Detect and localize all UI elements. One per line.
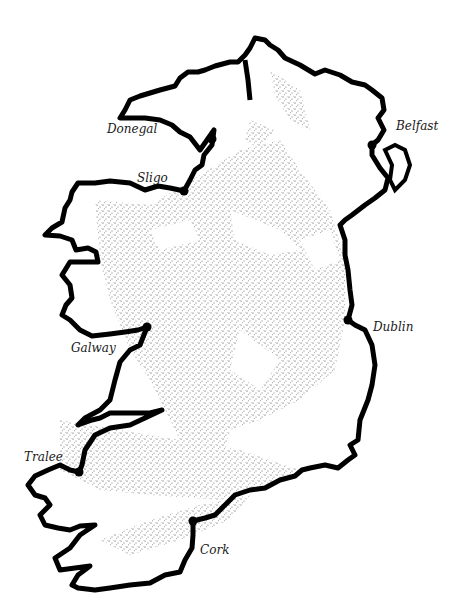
city-label-belfast: Belfast [396, 120, 438, 132]
city-label-galway: Galway [71, 342, 116, 354]
city-dot-dublin [344, 316, 353, 325]
map-graphic [0, 0, 457, 612]
city-label-sligo: Sligo [137, 172, 168, 184]
ireland-map: Donegal Sligo Belfast Dublin Galway Tral… [0, 0, 457, 612]
city-label-tralee: Tralee [24, 451, 63, 463]
inlet-outline [245, 60, 250, 100]
city-dot-cork [189, 517, 198, 526]
city-label-cork: Cork [200, 544, 229, 556]
city-label-donegal: Donegal [107, 123, 157, 135]
city-dot-galway [143, 323, 152, 332]
city-dot-donegal [208, 135, 217, 144]
city-dot-tralee [75, 468, 84, 477]
city-dot-belfast [368, 141, 377, 150]
city-dot-sligo [180, 187, 189, 196]
city-label-dublin: Dublin [373, 321, 413, 333]
